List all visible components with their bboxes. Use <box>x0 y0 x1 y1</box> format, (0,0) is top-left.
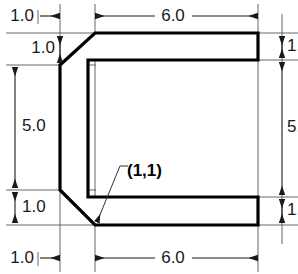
drawing-svg: 1.0 1.0 6.0 1.0 5.0 5.0 <box>0 0 298 274</box>
dim-label-top-left-horizontal: 1.0 <box>10 6 34 25</box>
dim-top-horizontal: 6.0 <box>95 6 258 25</box>
dim-bottom-left-horizontal: 1.0 <box>10 248 60 267</box>
dim-label-top-horizontal: 6.0 <box>161 6 185 25</box>
dim-label-bottom-right-vertical: 1.0 <box>287 200 298 219</box>
dim-label-bottom-left-horizontal: 1.0 <box>10 248 34 267</box>
dim-top-left-horizontal: 1.0 <box>10 6 60 25</box>
coordinate-label: (1,1) <box>127 161 162 180</box>
dim-bottom-right-vertical: 1.0 <box>282 199 298 223</box>
dim-label-bottom-left-vertical: 1.0 <box>22 197 46 216</box>
engineering-drawing-canvas: 1.0 1.0 6.0 1.0 5.0 5.0 <box>0 0 298 274</box>
dim-bottom-horizontal: 6.0 <box>95 248 258 267</box>
dim-right-vertical: 5.0 <box>282 62 298 195</box>
dim-label-right-vertical: 5.0 <box>287 117 298 136</box>
part-profile <box>60 33 258 225</box>
dim-top-right-vertical: 1.0 <box>282 36 298 58</box>
dim-left-vertical: 5.0 <box>15 67 46 188</box>
dim-label-bottom-horizontal: 6.0 <box>161 248 185 267</box>
dim-label-left-vertical: 5.0 <box>22 116 46 135</box>
dim-bottom-left-vertical: 1.0 <box>15 192 46 223</box>
dim-label-top-right-vertical: 1.0 <box>287 36 298 55</box>
dim-top-left-vertical: 1.0 <box>31 36 60 63</box>
dim-label-top-left-vertical: 1.0 <box>31 38 55 57</box>
